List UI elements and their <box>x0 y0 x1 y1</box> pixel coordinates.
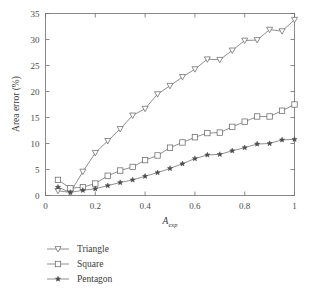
data-point-marker <box>105 183 110 188</box>
series-triangle <box>55 17 298 195</box>
data-point-marker <box>179 75 185 80</box>
y-tick-label: 0 <box>35 191 40 201</box>
data-point-marker <box>242 38 248 43</box>
y-tick-label: 15 <box>31 113 41 123</box>
data-point-marker <box>230 124 235 129</box>
x-axis-title-subscript: exp <box>168 221 178 228</box>
x-axis-title: Aexp <box>162 216 179 228</box>
data-point-marker <box>267 141 272 146</box>
chart-legend: TriangleSquarePentagon <box>47 244 113 284</box>
data-point-marker <box>155 170 160 175</box>
y-axis-title: Area error (%) <box>11 76 22 132</box>
data-point-marker <box>279 108 284 113</box>
data-point-marker <box>80 169 86 174</box>
data-point-marker <box>167 145 172 150</box>
data-point-marker <box>130 177 135 182</box>
data-point-marker <box>93 186 98 191</box>
data-point-marker <box>217 57 223 62</box>
legend-item-square[interactable]: Square <box>47 259 103 269</box>
data-point-marker <box>242 145 247 150</box>
x-tick-label: 0.2 <box>90 201 101 211</box>
x-axis-ticks: 00.20.40.60.81 <box>43 14 297 211</box>
data-point-marker <box>55 177 60 182</box>
y-tick-label: 10 <box>31 139 41 149</box>
y-tick-label: 25 <box>31 61 41 71</box>
data-point-marker <box>230 148 235 153</box>
x-tick-label: 0 <box>43 201 48 211</box>
data-point-marker <box>192 135 197 140</box>
y-tick-label: 5 <box>35 165 40 175</box>
data-point-marker <box>255 141 260 146</box>
data-point-marker <box>167 83 173 88</box>
data-point-marker <box>242 119 247 124</box>
data-point-marker <box>142 106 148 111</box>
y-tick-label: 20 <box>31 87 41 97</box>
legend-item-pentagon[interactable]: Pentagon <box>47 274 113 284</box>
legend-item-label: Triangle <box>77 244 109 254</box>
data-point-marker <box>118 168 123 173</box>
x-tick-label: 0.6 <box>189 201 201 211</box>
chart-figure: 05101520253035 00.20.40.60.81 Area error… <box>0 0 316 290</box>
legend-item-triangle[interactable]: Triangle <box>47 244 109 254</box>
data-point-marker <box>217 130 222 135</box>
data-series-layer <box>55 17 298 195</box>
legend-item-label: Square <box>77 259 103 269</box>
data-point-marker <box>279 29 285 34</box>
data-point-marker <box>229 48 235 53</box>
data-point-marker <box>142 157 147 162</box>
y-tick-label: 35 <box>31 9 41 19</box>
data-point-marker <box>167 166 172 171</box>
data-point-marker <box>130 164 135 169</box>
data-point-marker <box>267 114 272 119</box>
data-point-marker <box>217 152 222 157</box>
data-point-marker <box>192 156 197 161</box>
x-axis-title-text: Aexp <box>162 216 179 228</box>
data-point-marker <box>254 114 259 119</box>
x-tick-label: 0.4 <box>139 201 151 211</box>
area-error-line-chart: 05101520253035 00.20.40.60.81 Area error… <box>0 0 316 290</box>
legend-sample-marker <box>55 276 60 281</box>
data-point-marker <box>205 130 210 135</box>
data-point-marker <box>279 137 284 142</box>
data-point-marker <box>105 173 110 178</box>
data-point-marker <box>155 153 160 158</box>
data-point-marker <box>118 180 123 185</box>
data-point-marker <box>205 152 210 157</box>
y-axis-title-text: Area error (%) <box>11 76 22 132</box>
data-point-marker <box>180 140 185 145</box>
data-point-marker <box>92 150 98 155</box>
series-square <box>55 102 297 191</box>
data-point-marker <box>143 174 148 179</box>
data-point-marker <box>180 161 185 166</box>
data-point-marker <box>192 67 198 72</box>
legend-item-label: Pentagon <box>77 274 113 284</box>
y-tick-label: 30 <box>31 35 41 45</box>
x-tick-label: 1 <box>292 201 297 211</box>
data-point-marker <box>292 102 297 107</box>
legend-sample-marker <box>55 261 60 266</box>
x-tick-label: 0.8 <box>239 201 251 211</box>
